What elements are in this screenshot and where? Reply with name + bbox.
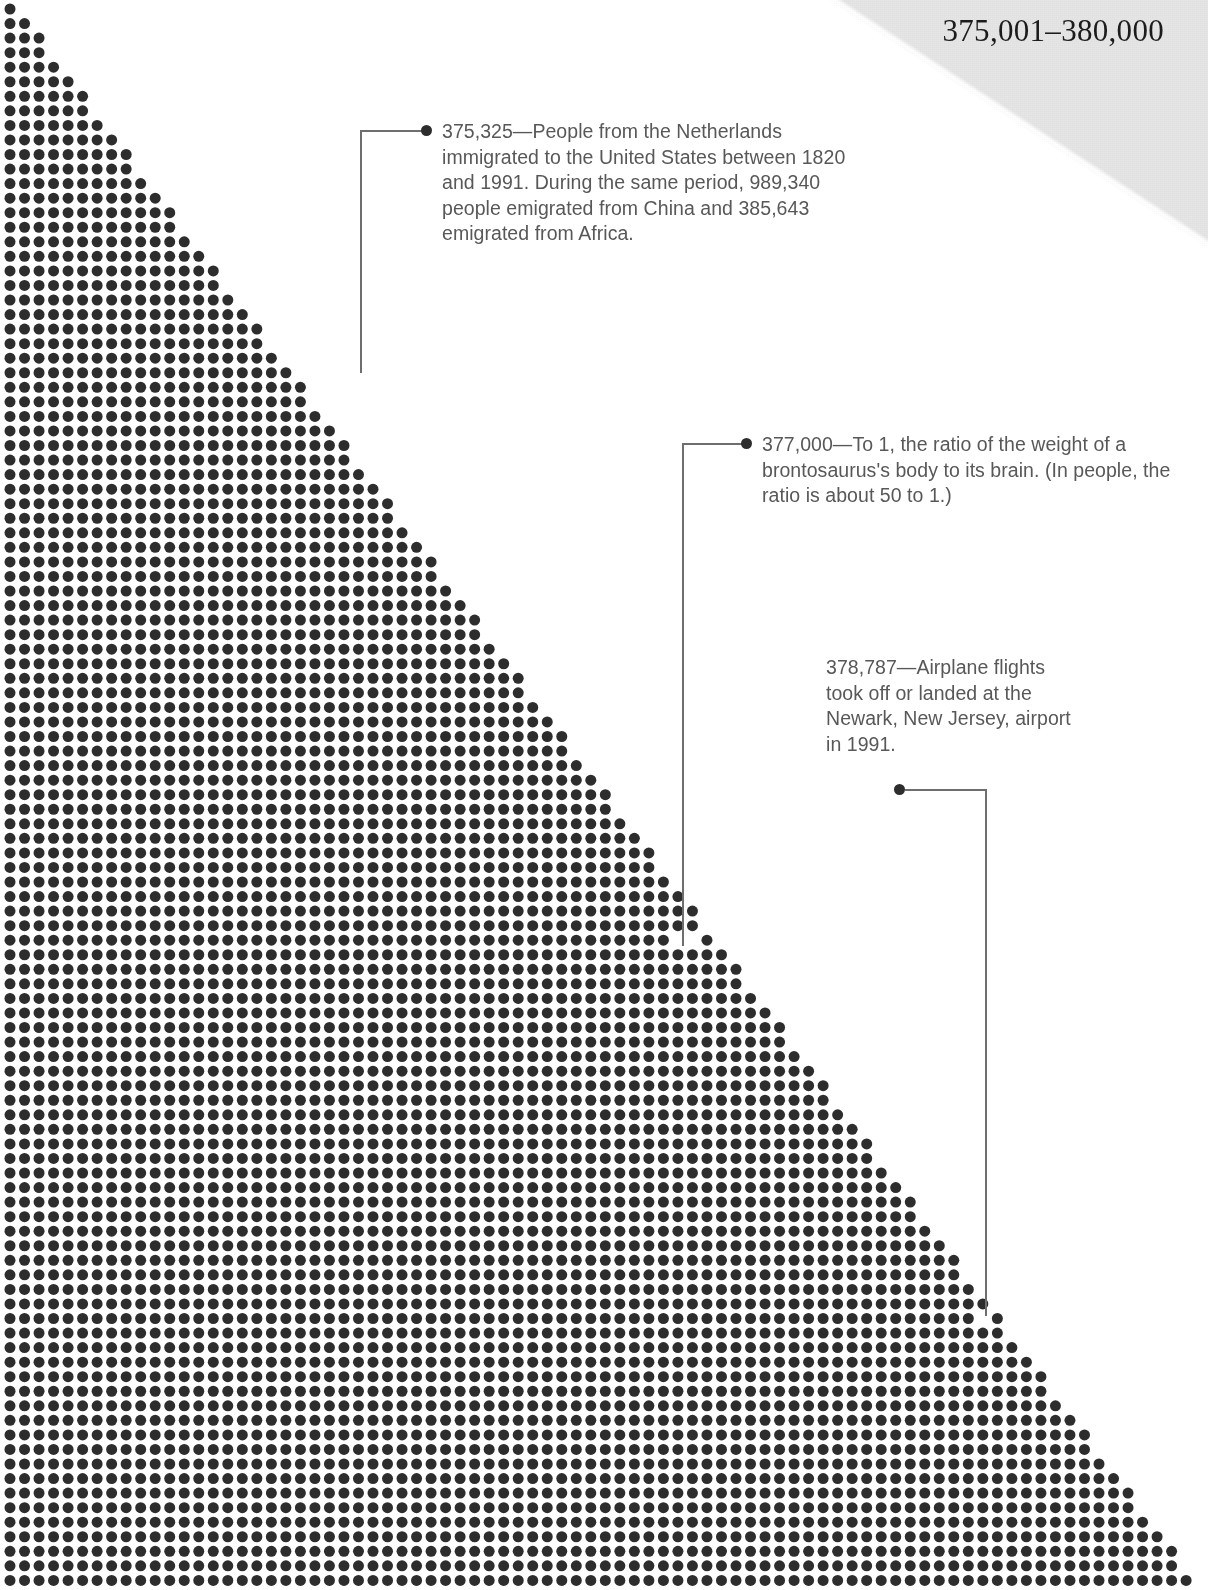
page-root: 375,001–380,000 375,325—People from the …: [0, 0, 1208, 1590]
annotation-bullet-3: [894, 784, 905, 795]
leader-line-horizontal-1: [360, 130, 422, 132]
leader-line-horizontal-2: [682, 443, 742, 445]
leader-line-horizontal-3: [905, 789, 986, 791]
annotation-3-text: 378,787—Airplane flights took off or lan…: [826, 655, 1076, 757]
annotation-2: 377,000—To 1, the ratio of the weight of…: [762, 432, 1182, 509]
leader-line-vertical-2: [682, 443, 684, 946]
leader-line-vertical-1: [360, 130, 362, 373]
annotation-3: 378,787—Airplane flights took off or lan…: [826, 655, 1076, 757]
annotation-bullet-2: [741, 438, 752, 449]
annotation-bullet-1: [421, 125, 432, 136]
annotation-1: 375,325—People from the Netherlands immi…: [442, 119, 882, 247]
annotation-2-text: 377,000—To 1, the ratio of the weight of…: [762, 432, 1182, 509]
leader-line-vertical-3: [985, 789, 987, 1316]
page-title: 375,001–380,000: [943, 13, 1165, 49]
annotation-1-text: 375,325—People from the Netherlands immi…: [442, 119, 882, 247]
